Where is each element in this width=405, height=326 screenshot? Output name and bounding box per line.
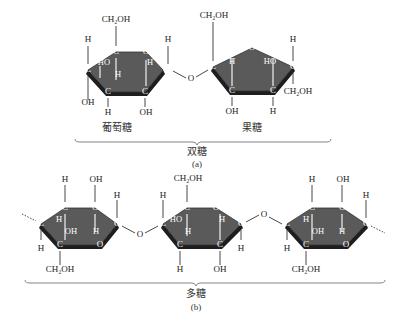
h-label: H — [238, 243, 245, 253]
polysaccharide-label: 多糖 — [186, 287, 206, 299]
carbon-label: C — [113, 46, 119, 56]
h-label: H — [114, 190, 121, 200]
h-label: H — [363, 190, 370, 200]
fructose-ring: CH₂OH C O H HO H C CH₂OH C C OH H — [200, 10, 313, 116]
oxygen-label: O — [213, 202, 220, 212]
carbon-label: C — [270, 85, 276, 95]
h-label: H — [219, 214, 225, 224]
glycosidic-oxygen: O — [137, 229, 144, 239]
h-label: H — [165, 34, 172, 44]
carbon-label: C — [177, 239, 183, 249]
carbon-label: C — [105, 86, 111, 96]
glucose-caption: 葡萄糖 — [102, 121, 132, 133]
ho-label: HO — [264, 56, 276, 66]
carbon-label: C — [363, 218, 369, 228]
oh-label: OH — [140, 107, 153, 117]
carbon-label: C — [238, 218, 244, 228]
oh-label: OH — [65, 226, 77, 236]
oh-label: OH — [90, 174, 103, 184]
fructose-caption: 果糖 — [242, 121, 262, 133]
carbon-label: C — [160, 218, 166, 228]
h-label: H — [93, 226, 99, 236]
oh-label: OH — [82, 97, 95, 107]
ch2oh-label: CH₂OH — [46, 264, 75, 274]
carbon-label: C — [184, 202, 190, 212]
h-label: H — [147, 57, 153, 67]
oh-label: OH — [226, 106, 239, 116]
carbon-label: C — [229, 85, 235, 95]
carbon-label: C — [339, 202, 345, 212]
brace-a — [75, 139, 331, 145]
ch2oh-label: CH₂OH — [284, 86, 313, 96]
glucose-unit-2: CH₂OH H C O C C HO H H C C H OH H — [160, 173, 259, 274]
carbon-label: C — [114, 218, 120, 228]
oxygen-label: O — [343, 239, 350, 249]
h-label: H — [56, 214, 62, 224]
glucose-ring: CH₂OH H C O C HO H H C C OH H OH H C — [82, 14, 172, 117]
glycosidic-oxygen: O — [261, 209, 268, 219]
h-label: H — [177, 264, 184, 274]
carbon-label: C — [303, 239, 309, 249]
ch2oh-label: CH₂OH — [174, 173, 203, 183]
h-label: H — [160, 190, 167, 200]
ho-label: HO — [98, 57, 110, 67]
carbon-label: C — [142, 86, 148, 96]
h-label: H — [105, 107, 112, 117]
h-label: H — [339, 226, 345, 236]
carbon-label: C — [309, 202, 315, 212]
h-label: H — [38, 243, 45, 253]
h-label: H — [115, 69, 121, 79]
ch2oh-label: CH₂OH — [292, 264, 321, 274]
h-label: H — [290, 34, 297, 44]
glycosidic-oxygen: O — [188, 73, 195, 83]
carbon-label: C — [284, 218, 290, 228]
carbon-label: C — [92, 202, 98, 212]
figure-a-label: (a) — [192, 159, 202, 169]
carbon-label: C — [290, 61, 296, 71]
oh-label: OH — [337, 174, 350, 184]
figure-b-label: (b) — [191, 302, 202, 312]
h-label: H — [229, 56, 235, 66]
oxygen-label: O — [97, 239, 104, 249]
oxygen-label: O — [249, 42, 256, 52]
carbon-label: C — [38, 218, 44, 228]
h-label: H — [309, 174, 316, 184]
ch2oh-label: CH₂OH — [200, 10, 229, 20]
h-label: H — [85, 34, 92, 44]
glucose-unit-3: H OH H C C C C H OH H C O H CH₂OH — [284, 174, 385, 274]
disaccharide-label: 双糖 — [187, 145, 207, 157]
ch2oh-label: CH₂OH — [102, 14, 131, 24]
oh-label: OH — [214, 264, 227, 274]
carbon-label: C — [165, 64, 171, 74]
h-label: H — [270, 106, 277, 116]
carbon-label: C — [85, 64, 91, 74]
h-label: H — [303, 214, 309, 224]
oh-label: OH — [312, 226, 324, 236]
glucose-unit-1: H OH H C C C C H OH H C O H CH₂OH — [22, 174, 135, 274]
oxygen-label: O — [143, 46, 150, 56]
carbohydrate-diagram: CH₂OH H C O C HO H H C C OH H OH H C O C… — [0, 0, 405, 326]
carbon-label: C — [217, 239, 223, 249]
h-label: H — [284, 243, 291, 253]
h-label: H — [185, 226, 191, 236]
carbon-label: C — [210, 61, 216, 71]
carbon-label: C — [57, 239, 63, 249]
h-label: H — [62, 174, 69, 184]
carbon-label: C — [62, 202, 68, 212]
brace-b — [25, 280, 385, 286]
ho-label: HO — [170, 214, 182, 224]
